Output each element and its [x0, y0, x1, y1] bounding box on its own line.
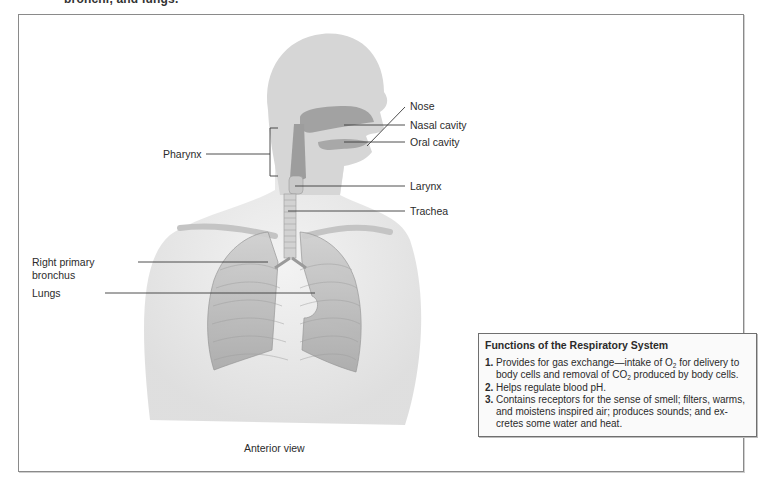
label-right-primary-bronchus-line1: Right primary: [32, 256, 94, 268]
item-number: 1.: [485, 357, 493, 369]
label-nasal-cavity: Nasal cavity: [410, 119, 467, 131]
item-number: 3.: [485, 394, 493, 406]
item-number: 2.: [485, 382, 493, 394]
label-lungs: Lungs: [32, 287, 61, 299]
larynx-shape: [289, 176, 303, 194]
functions-list: 1. Provides for gas exchange—intake of O…: [485, 357, 750, 430]
label-trachea: Trachea: [410, 205, 448, 217]
function-item-3: 3. Contains receptors for the sense of s…: [485, 394, 750, 431]
trachea-shape: [284, 194, 296, 258]
view-label: Anterior view: [244, 442, 305, 454]
label-nose: Nose: [410, 100, 435, 112]
label-right-primary-bronchus-line2: bronchus: [32, 269, 75, 281]
label-oral-cavity: Oral cavity: [410, 136, 460, 148]
label-pharynx: Pharynx: [163, 148, 202, 160]
function-item-2: 2. Helps regulate blood pH.: [485, 382, 750, 394]
info-box-title: Functions of the Respiratory System: [485, 339, 750, 351]
function-item-1: 1. Provides for gas exchange—intake of O…: [485, 357, 750, 381]
torso-silhouette: [144, 160, 421, 425]
functions-info-box: Functions of the Respiratory System 1. P…: [478, 333, 757, 437]
label-larynx: Larynx: [410, 180, 442, 192]
